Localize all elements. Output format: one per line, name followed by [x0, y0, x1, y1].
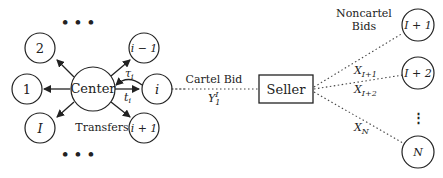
svg-text:2: 2 — [36, 41, 44, 56]
node-I-plus-1: I + 1 — [402, 9, 434, 41]
edge-center-to-i-plus-1 — [111, 102, 130, 117]
svg-text:I: I — [36, 121, 43, 136]
node-I: I — [25, 113, 55, 143]
cartel-bid-value: Y1I — [208, 90, 220, 107]
svg-text:I + 2: I + 2 — [403, 67, 432, 80]
ellipsis-top: • • • — [61, 15, 95, 30]
center-node: Center — [70, 67, 116, 111]
bid-label-N: XN — [353, 121, 370, 136]
node-2: 2 — [25, 33, 55, 63]
bid-label-I-plus-2: XI+2 — [353, 83, 377, 98]
edge-center-to-2 — [57, 60, 74, 77]
node-i-plus-1: i + 1 — [129, 113, 159, 143]
node-i: i — [142, 74, 172, 104]
svg-text:1: 1 — [23, 82, 31, 97]
cartel-diagram: • • • • • • Center 2 1 I i − 1 i i + 1 τ… — [0, 0, 443, 178]
edge-tau-i — [116, 80, 142, 86]
svg-text:i: i — [155, 82, 159, 97]
svg-text:I + 1: I + 1 — [403, 19, 432, 32]
center-label: Center — [70, 81, 116, 96]
noncartel-title-2: Bids — [352, 20, 377, 33]
svg-text:i + 1: i + 1 — [131, 122, 158, 135]
bid-line-N — [314, 92, 403, 143]
tau-label: τi — [125, 67, 134, 81]
node-N: N — [402, 136, 434, 168]
t-label: ti — [124, 91, 131, 105]
vertical-ellipsis: ⋮ — [412, 110, 425, 125]
node-i-minus-1: i − 1 — [129, 33, 159, 63]
transfers-label: Transfers — [75, 121, 129, 134]
svg-text:N: N — [412, 146, 423, 159]
cartel-bid-label: Cartel Bid — [186, 73, 243, 86]
node-I-plus-2: I + 2 — [402, 57, 434, 89]
node-1: 1 — [12, 74, 42, 104]
bid-label-I-plus-1: XI+1 — [353, 64, 377, 79]
ellipsis-bottom: • • • — [61, 147, 95, 162]
seller-box: Seller — [259, 75, 313, 103]
edge-center-to-I — [57, 102, 74, 117]
svg-text:Seller: Seller — [267, 82, 307, 97]
noncartel-title: Noncartel — [336, 7, 392, 20]
svg-text:i − 1: i − 1 — [131, 42, 158, 55]
bid-line-I-plus-1 — [314, 33, 403, 87]
